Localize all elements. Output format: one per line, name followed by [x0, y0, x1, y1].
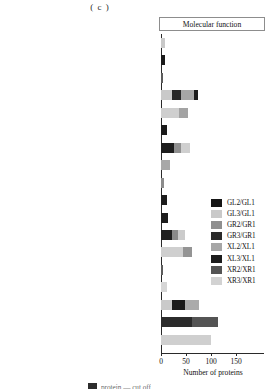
- bar-segment: [161, 195, 167, 205]
- legend-item: GR3/GR1: [211, 231, 273, 242]
- stacked-bar: [161, 317, 218, 327]
- stacked-bar: [161, 247, 192, 257]
- legend-swatch: [211, 243, 222, 251]
- bar-segment: [161, 178, 164, 188]
- legend-label: XR3/XR1: [227, 277, 255, 285]
- stacked-bar: [161, 125, 167, 135]
- bar-segment: [172, 90, 181, 100]
- bar-segment: [161, 265, 163, 275]
- legend-item: XR2/XR1: [211, 264, 273, 275]
- stacked-bar: [161, 335, 211, 345]
- bar-segment: [192, 317, 218, 327]
- legend-swatch: [211, 255, 222, 263]
- bar-segment: [183, 247, 192, 257]
- bar-segment: [179, 108, 188, 118]
- bar-segment: [178, 230, 185, 240]
- stacked-bar: [161, 38, 165, 48]
- stacked-bar: [161, 108, 188, 118]
- cutoff-swatch: [88, 383, 97, 389]
- stacked-bar: [161, 90, 198, 100]
- x-tick-label: 150: [224, 357, 248, 366]
- legend-swatch: [211, 221, 222, 229]
- bar-segment: [194, 90, 198, 100]
- cutoff-text: protein — cut off: [101, 384, 151, 389]
- x-axis-label: Number of proteins: [161, 368, 265, 377]
- bar-segment: [161, 247, 183, 257]
- stacked-bar: [161, 195, 167, 205]
- bar-segment: [185, 300, 199, 310]
- bar-segment: [161, 143, 174, 153]
- stacked-bar: [161, 230, 185, 240]
- legend-swatch: [211, 266, 222, 274]
- legend-swatch: [211, 277, 222, 285]
- bar-segment: [161, 125, 167, 135]
- bar-segment: [161, 230, 172, 240]
- bar-segment: [181, 143, 190, 153]
- bar-segment: [161, 73, 163, 83]
- x-tick: [236, 353, 237, 356]
- stacked-bar: [161, 160, 170, 170]
- stacked-bar: [161, 265, 163, 275]
- legend-item: XL2/XL1: [211, 242, 273, 253]
- bar-segment: [161, 108, 179, 118]
- x-tick: [211, 353, 212, 356]
- bar-segment: [161, 317, 192, 327]
- legend-item: XL3/XL1: [211, 253, 273, 264]
- legend-item: XR3/XR1: [211, 275, 273, 286]
- legend-swatch: [211, 232, 222, 240]
- stacked-bar: [161, 73, 163, 83]
- x-tick-label: 100: [199, 357, 223, 366]
- legend-swatch: [211, 199, 222, 207]
- x-tick-label: 0: [149, 357, 173, 366]
- stacked-bar: [161, 300, 199, 310]
- legend-label: GR2/GR1: [227, 221, 255, 229]
- bar-segment: [161, 160, 170, 170]
- legend-label: GL3/GL1: [227, 210, 255, 218]
- bar-segment: [181, 90, 194, 100]
- stacked-bar: [161, 55, 165, 65]
- legend-item: GL3/GL1: [211, 208, 273, 219]
- x-tick: [186, 353, 187, 356]
- stacked-bar: [161, 282, 167, 292]
- x-axis-line: [161, 353, 264, 354]
- stacked-bar: [161, 213, 168, 223]
- bar-segment: [161, 38, 165, 48]
- x-tick-label: 50: [174, 357, 198, 366]
- legend-label: XL2/XL1: [227, 243, 255, 251]
- bar-segment: [161, 55, 165, 65]
- legend-label: GR3/GR1: [227, 232, 255, 240]
- bar-segment: [161, 213, 168, 223]
- stacked-bar: [161, 178, 164, 188]
- legend: GL2/GL1GL3/GL1GR2/GR1GR3/GR1XL2/XL1XL3/X…: [211, 197, 273, 287]
- bar-segment: [161, 300, 172, 310]
- x-tick: [161, 353, 162, 356]
- figure-panel: ( c ) Molecular function tetrapyrrole bi…: [0, 0, 273, 389]
- bar-segment: [161, 335, 211, 345]
- legend-item: GR2/GR1: [211, 219, 273, 230]
- bar-segment: [161, 90, 172, 100]
- bar-segment: [174, 143, 181, 153]
- legend-label: GL2/GL1: [227, 199, 255, 207]
- chart-title: Molecular function: [159, 17, 265, 31]
- legend-item: GL2/GL1: [211, 197, 273, 208]
- panel-caption: ( c ): [0, 2, 200, 12]
- legend-swatch: [211, 210, 222, 218]
- bar-segment: [161, 282, 167, 292]
- legend-label: XL3/XL1: [227, 255, 255, 263]
- bar-segment: [172, 300, 185, 310]
- cutoff-legend-strip: protein — cut off: [88, 383, 151, 389]
- legend-label: XR2/XR1: [227, 266, 255, 274]
- stacked-bar: [161, 143, 190, 153]
